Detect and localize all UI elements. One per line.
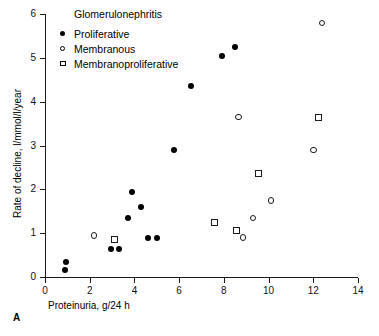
data-point [255,170,262,177]
y-tick-label: 2 [22,184,36,194]
x-tick [224,278,225,283]
data-point [233,227,240,234]
data-point [219,53,225,59]
y-tick [40,277,45,278]
x-tick [134,278,135,283]
data-point [310,147,317,154]
x-tick-label: 4 [132,286,138,296]
x-tick [90,278,91,283]
x-tick [45,278,46,283]
x-tick-label: 12 [308,286,319,296]
x-tick-label: 0 [42,286,48,296]
legend: Glomerulonephritis Proliferative Membran… [60,8,178,71]
y-tick-label: 3 [22,141,36,151]
x-tick-label: 2 [87,286,93,296]
open-square-icon [60,61,74,67]
x-tick-label: 8 [221,286,227,296]
x-tick-label: 10 [263,286,274,296]
y-tick-label: 5 [22,53,36,63]
legend-item-label: Membranous [74,43,135,55]
data-point [111,236,118,243]
x-tick [179,278,180,283]
data-point [125,215,131,221]
data-point [315,114,322,121]
x-tick [313,278,314,283]
y-tick-label: 1 [22,228,36,238]
x-tick-label: 14 [352,286,363,296]
open-circle-icon [60,46,74,51]
y-tick-label: 4 [22,97,36,107]
data-point [171,147,177,153]
data-point [211,219,218,226]
x-tick-label: 6 [176,286,182,296]
x-axis-line [45,277,358,278]
y-tick-label: 0 [22,272,36,282]
y-tick-label: 6 [22,9,36,19]
data-point [235,114,242,121]
legend-item-membranoproliferative: Membranoproliferative [60,56,178,71]
data-point [250,215,257,222]
y-tick [40,102,45,103]
legend-item-membranous: Membranous [60,41,178,56]
y-tick [40,189,45,190]
data-point [63,259,69,265]
x-tick [358,278,359,283]
x-axis-label: Proteinuria, g/24 h [48,300,130,311]
y-tick [40,233,45,234]
y-axis-line [45,14,46,278]
y-axis-label: Rate of decline, l/mmol/l/year [12,69,23,239]
legend-item-proliferative: Proliferative [60,26,178,41]
y-tick [40,58,45,59]
y-tick [40,14,45,15]
data-point [232,44,238,50]
data-point [129,189,135,195]
data-point [62,267,68,273]
data-point [116,246,122,252]
data-point [268,197,275,204]
legend-item-label: Membranoproliferative [74,58,178,70]
legend-item-label: Proliferative [74,28,129,40]
data-point [108,246,114,252]
legend-title: Glomerulonephritis [74,8,178,20]
x-tick [269,278,270,283]
data-point [145,235,151,241]
data-point [240,234,247,241]
y-tick [40,146,45,147]
data-point [188,83,194,89]
scatter-plot-figure: 02468101214 0123456 Proteinuria, g/24 h … [0,0,379,336]
panel-label: A [13,312,20,323]
data-point [138,204,144,210]
filled-circle-icon [60,31,74,36]
data-point [319,20,326,27]
data-point [91,232,98,239]
data-point [154,235,160,241]
